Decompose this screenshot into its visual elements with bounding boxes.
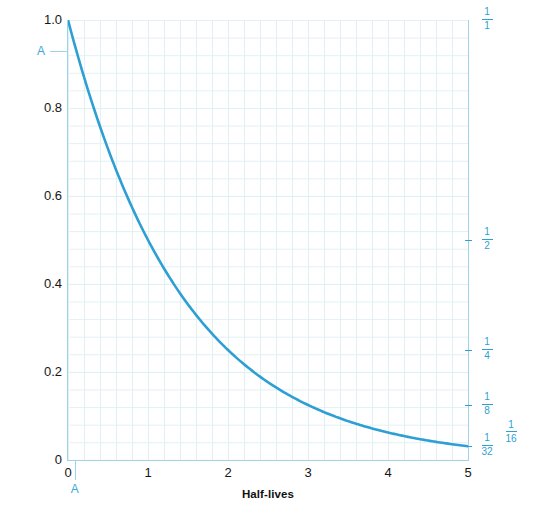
y-right-tick-mark (465, 405, 472, 406)
y-right-fraction-label: 14 (472, 337, 502, 361)
fraction-numerator: 1 (472, 433, 502, 443)
fraction-denominator: 8 (472, 406, 502, 416)
y-right-fraction-label: 11 (472, 7, 502, 31)
y-right-tick-mark (465, 240, 472, 241)
fraction-denominator: 32 (472, 447, 502, 457)
fraction-numerator: 1 (472, 392, 502, 402)
fraction-bar (506, 431, 517, 432)
y-right-fraction-label: 18 (472, 392, 502, 416)
y-right-tick-mark (465, 350, 472, 351)
y-axis-right-ticks: 11121418116132 (0, 0, 534, 518)
fraction-numerator: 1 (472, 227, 502, 237)
marker-a-left-line (50, 51, 68, 52)
y-right-fraction-label: 12 (472, 227, 502, 251)
fraction-numerator: 1 (496, 420, 526, 430)
chart-container: Decimal fraction of sample remaining Rat… (0, 0, 534, 518)
y-right-fraction-label: 132 (472, 433, 502, 457)
fraction-denominator: 4 (472, 351, 502, 361)
marker-a-bottom-line (75, 460, 76, 480)
fraction-denominator: 1 (472, 21, 502, 31)
marker-a-left-label: A (37, 44, 45, 58)
fraction-numerator: 1 (472, 7, 502, 17)
y-right-tick-mark (465, 446, 472, 447)
fraction-denominator: 2 (472, 241, 502, 251)
fraction-numerator: 1 (472, 337, 502, 347)
marker-a-bottom-label: A (71, 482, 79, 496)
